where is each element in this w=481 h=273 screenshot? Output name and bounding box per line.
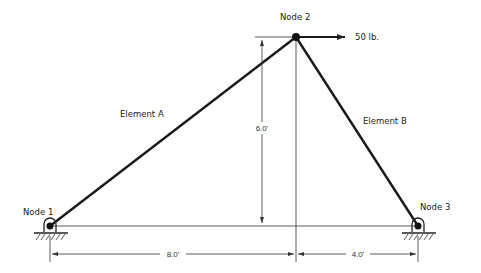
node1-label: Node 1 bbox=[23, 207, 53, 217]
height-dimension-label: 6.0' bbox=[256, 124, 269, 133]
node1-pin-support bbox=[34, 218, 68, 240]
element-b-label: Element B bbox=[363, 116, 407, 126]
node2-joint bbox=[292, 33, 300, 41]
node3-pin-support bbox=[402, 218, 436, 240]
left-span-label: 8.0' bbox=[167, 250, 180, 259]
right-span-label: 4.0' bbox=[352, 250, 365, 259]
element-b bbox=[296, 37, 418, 226]
load-label: 50 lb. bbox=[355, 32, 379, 42]
truss-diagram: 6.0' 50 lb. Node 2 Node 1 bbox=[0, 0, 481, 273]
node2-label: Node 2 bbox=[280, 12, 310, 22]
node3-label: Node 3 bbox=[420, 202, 450, 212]
element-a-label: Element A bbox=[120, 109, 164, 119]
